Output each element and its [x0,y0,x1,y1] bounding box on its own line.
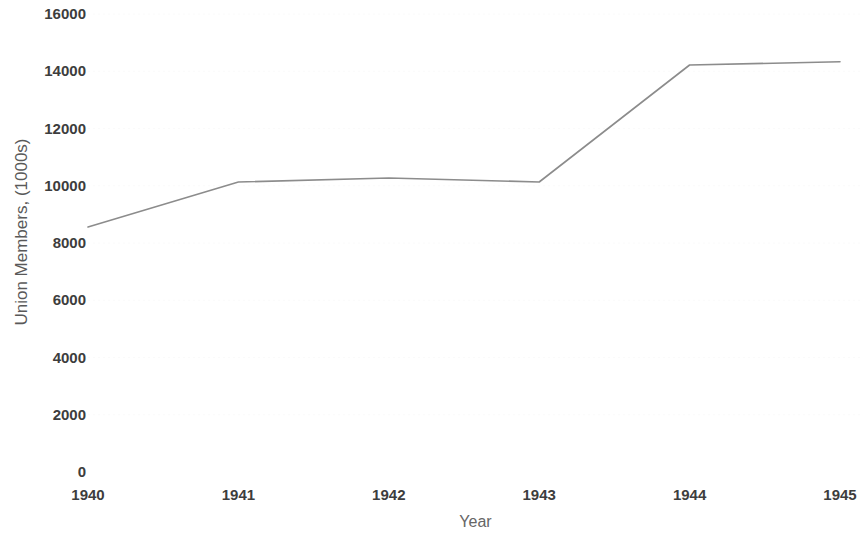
x-axis-title: Year [90,513,861,531]
x-axis-tick-label: 1940 [43,487,133,502]
x-axis-tick-label: 1944 [645,487,735,502]
x-axis-tick-label: 1943 [494,487,584,502]
line-chart: 0200040006000800010000120001400016000 19… [0,0,861,538]
y-axis-tick-label: 0 [14,464,86,479]
x-axis-tick-label: 1942 [344,487,434,502]
x-axis-tick-label: 1941 [193,487,283,502]
y-axis-tick-label: 16000 [14,6,86,21]
plot-area [0,0,861,538]
data-series-line [88,62,840,227]
plot-svg [0,0,861,538]
y-axis-title: Union Members, (1000s) [12,32,32,432]
x-axis-tick-label: 1945 [795,487,861,502]
gridlines [88,14,861,415]
